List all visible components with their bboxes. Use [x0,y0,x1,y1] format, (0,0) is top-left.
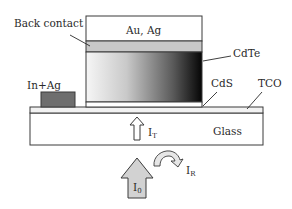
tco-label: TCO [258,77,282,89]
cds-label: CdS [211,77,233,89]
cdte-layer [86,52,202,102]
tco-leader [247,92,262,109]
tco-layer [30,107,263,113]
it-sub: T [152,132,157,140]
reflected-intensity-label: IR [186,164,195,180]
i0-sub: 0 [137,187,141,195]
reflected-light-arrow-icon [154,151,183,167]
in-ag-label: In+Ag [27,79,61,91]
cds-layer [86,102,202,107]
glass-label: Glass [213,125,242,137]
au-ag-label: Au, Ag [126,24,161,36]
ir-sub: R [190,170,195,178]
cds-leader [203,92,217,106]
in-ag-contact [41,92,75,107]
transmitted-intensity-label: IT [148,126,157,142]
incident-intensity-label: I0 [133,181,142,197]
back-contact-label: Back contact [14,17,83,29]
cdte-leader [203,56,231,61]
cdte-label: CdTe [233,47,260,59]
back-contact-layer [86,41,202,52]
